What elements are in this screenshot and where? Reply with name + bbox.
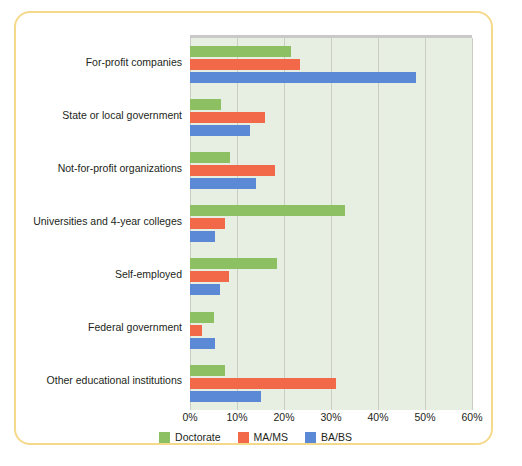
bar-group: [190, 357, 472, 410]
x-tick-label: 50%: [414, 411, 435, 423]
legend: DoctorateMA/MSBA/BS: [16, 431, 495, 443]
bar: [190, 178, 256, 189]
legend-item[interactable]: BA/BS: [305, 431, 352, 443]
x-tick-label: 40%: [367, 411, 388, 423]
bar: [190, 165, 275, 176]
bar: [190, 205, 345, 216]
legend-label: Doctorate: [175, 431, 221, 443]
bar-group: [190, 250, 472, 303]
bar: [190, 59, 300, 70]
x-tick-label: 0%: [182, 411, 197, 423]
bar: [190, 125, 250, 136]
category-label: For-profit companies: [16, 56, 182, 68]
x-tick-label: 30%: [320, 411, 341, 423]
legend-swatch-icon: [238, 432, 249, 443]
x-tick-label: 10%: [226, 411, 247, 423]
bar-group: [190, 91, 472, 144]
category-label: Other educational institutions: [16, 374, 182, 386]
bar-group: [190, 144, 472, 197]
legend-label: MA/MS: [254, 431, 288, 443]
category-label: Universities and 4-year colleges: [16, 215, 182, 227]
bar: [190, 365, 225, 376]
category-label: Not-for-profit organizations: [16, 162, 182, 174]
bar: [190, 112, 265, 123]
legend-swatch-icon: [159, 432, 170, 443]
bar: [190, 284, 220, 295]
bar: [190, 46, 291, 57]
bar: [190, 378, 336, 389]
plot-area: [190, 35, 472, 410]
bar: [190, 325, 202, 336]
legend-item[interactable]: Doctorate: [159, 431, 221, 443]
legend-label: BA/BS: [321, 431, 352, 443]
category-label: Self-employed: [16, 268, 182, 280]
legend-item[interactable]: MA/MS: [238, 431, 288, 443]
category-label: State or local government: [16, 109, 182, 121]
bar: [190, 231, 215, 242]
grouped-bar-chart: For-profit companiesState or local gover…: [16, 13, 495, 447]
bar-group: [190, 197, 472, 250]
legend-swatch-icon: [305, 432, 316, 443]
bar: [190, 99, 221, 110]
bar: [190, 258, 277, 269]
bar: [190, 338, 215, 349]
bar: [190, 218, 225, 229]
category-label: Federal government: [16, 321, 182, 333]
bar: [190, 152, 230, 163]
bar: [190, 271, 229, 282]
bar: [190, 72, 416, 83]
bar-group: [190, 38, 472, 91]
x-tick-label: 60%: [461, 411, 482, 423]
x-tick-label: 20%: [273, 411, 294, 423]
bar: [190, 391, 261, 402]
bar: [190, 312, 214, 323]
chart-card: For-profit companiesState or local gover…: [14, 11, 493, 445]
bar-group: [190, 304, 472, 357]
gridline-60: [472, 38, 473, 410]
